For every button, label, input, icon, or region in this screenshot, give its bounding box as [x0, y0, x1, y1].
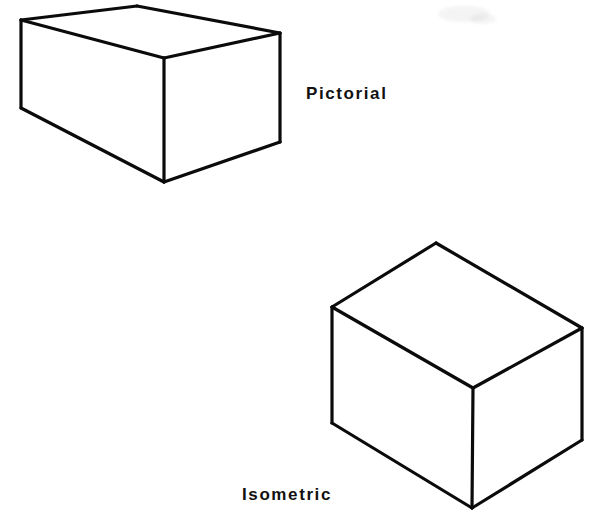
isometric-cube-front-vertical-edge	[472, 388, 473, 508]
pictorial-box-figure	[21, 6, 280, 182]
isometric-cube-figure	[332, 243, 582, 508]
pictorial-label: Pictorial	[306, 85, 387, 102]
figure-canvas: Pictorial Isometric	[0, 0, 612, 527]
isometric-label: Isometric	[242, 486, 332, 503]
technical-drawing-svg	[0, 0, 612, 527]
